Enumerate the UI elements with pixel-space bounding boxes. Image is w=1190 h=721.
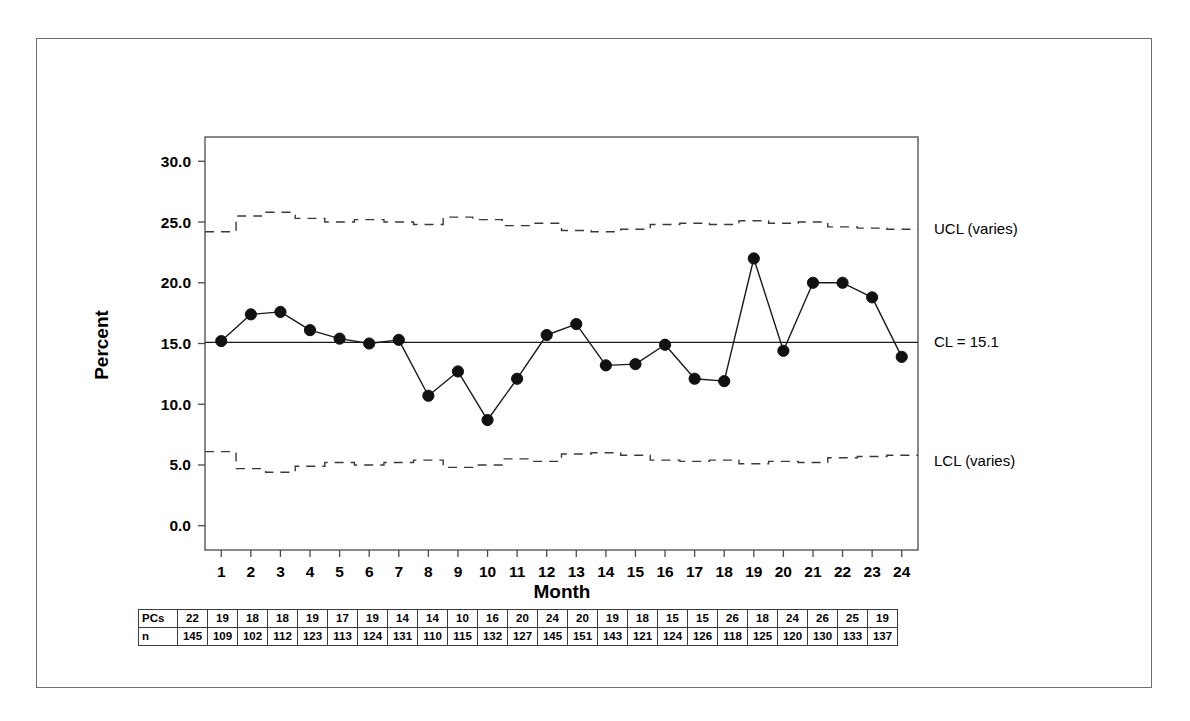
table-cell: 126 bbox=[688, 628, 718, 646]
data-point[interactable] bbox=[867, 292, 878, 303]
data-point[interactable] bbox=[452, 366, 463, 377]
table-cell: 112 bbox=[268, 628, 298, 646]
x-tick-label: 6 bbox=[365, 563, 374, 580]
x-tick-label: 23 bbox=[864, 563, 882, 580]
data-point[interactable] bbox=[719, 376, 730, 387]
table-cell: 18 bbox=[748, 610, 778, 628]
data-point[interactable] bbox=[482, 414, 493, 425]
data-point[interactable] bbox=[689, 373, 700, 384]
data-point[interactable] bbox=[659, 339, 670, 350]
data-point[interactable] bbox=[807, 277, 818, 288]
y-tick-label: 10.0 bbox=[161, 396, 191, 413]
table-cell: 125 bbox=[748, 628, 778, 646]
x-tick-label: 11 bbox=[509, 563, 526, 580]
table-cell: 102 bbox=[238, 628, 268, 646]
x-tick-label: 16 bbox=[656, 563, 674, 580]
table-cell: 14 bbox=[388, 610, 418, 628]
table-cell: 18 bbox=[628, 610, 658, 628]
data-point[interactable] bbox=[275, 306, 286, 317]
table-cell: 133 bbox=[838, 628, 868, 646]
x-tick-label: 19 bbox=[745, 563, 763, 580]
table-cell: 19 bbox=[598, 610, 628, 628]
data-point[interactable] bbox=[630, 359, 641, 370]
y-tick-label: 5.0 bbox=[169, 456, 191, 473]
x-tick-label: 2 bbox=[247, 563, 256, 580]
summary-data-table: PCs2219181819171914141016202420191815152… bbox=[138, 609, 898, 646]
x-tick-label: 18 bbox=[716, 563, 734, 580]
data-point[interactable] bbox=[571, 318, 582, 329]
data-point[interactable] bbox=[334, 333, 345, 344]
table-cell: 118 bbox=[718, 628, 748, 646]
x-tick-label: 17 bbox=[686, 563, 703, 580]
table-cell: 123 bbox=[298, 628, 328, 646]
table-body: PCs2219181819171914141016202420191815152… bbox=[139, 610, 898, 646]
ucl-line bbox=[205, 212, 918, 231]
table-cell: 151 bbox=[568, 628, 598, 646]
data-point[interactable] bbox=[541, 329, 552, 340]
table-cell: 130 bbox=[808, 628, 838, 646]
table-cell: 120 bbox=[778, 628, 808, 646]
table-cell: 19 bbox=[868, 610, 898, 628]
y-tick-label: 20.0 bbox=[161, 274, 191, 291]
data-point[interactable] bbox=[748, 253, 759, 264]
table-cell: 124 bbox=[658, 628, 688, 646]
table-cell: 109 bbox=[208, 628, 238, 646]
x-tick-label: 3 bbox=[276, 563, 285, 580]
data-point[interactable] bbox=[512, 373, 523, 384]
data-point[interactable] bbox=[216, 335, 227, 346]
x-tick-label: 5 bbox=[335, 563, 344, 580]
data-point[interactable] bbox=[600, 360, 611, 371]
axis-titles-group: Percent Month bbox=[91, 309, 590, 602]
table-cell: 127 bbox=[508, 628, 538, 646]
y-tick-label: 30.0 bbox=[161, 153, 191, 170]
table-cell: 124 bbox=[358, 628, 388, 646]
table-cell: 19 bbox=[358, 610, 388, 628]
table-cell: 18 bbox=[238, 610, 268, 628]
data-point[interactable] bbox=[837, 277, 848, 288]
x-tick-label: 8 bbox=[424, 563, 433, 580]
x-tick-label: 20 bbox=[775, 563, 792, 580]
table-cell: 15 bbox=[658, 610, 688, 628]
y-tick-label: 0.0 bbox=[169, 517, 191, 534]
plot-area: 0.05.010.015.020.025.030.012345678910111… bbox=[161, 137, 918, 580]
x-tick-label: 1 bbox=[217, 563, 226, 580]
plot-frame bbox=[205, 137, 918, 550]
y-tick-label: 15.0 bbox=[161, 335, 191, 352]
x-tick-label: 22 bbox=[834, 563, 851, 580]
table-cell: 25 bbox=[838, 610, 868, 628]
data-point[interactable] bbox=[245, 309, 256, 320]
table-cell: 24 bbox=[538, 610, 568, 628]
x-tick-label: 14 bbox=[597, 563, 615, 580]
data-series-group bbox=[205, 212, 918, 472]
lcl-line bbox=[205, 452, 918, 473]
y-tick-label: 25.0 bbox=[161, 214, 191, 231]
x-tick-label: 13 bbox=[568, 563, 586, 580]
table-cell: 18 bbox=[268, 610, 298, 628]
table-row: n145109102112123113124131110115132127145… bbox=[139, 628, 898, 646]
data-point[interactable] bbox=[393, 334, 404, 345]
x-tick-label: 12 bbox=[538, 563, 555, 580]
table-row-label: n bbox=[139, 628, 178, 646]
table-cell: 10 bbox=[448, 610, 478, 628]
table-cell: 26 bbox=[808, 610, 838, 628]
x-tick-label: 9 bbox=[454, 563, 463, 580]
data-point[interactable] bbox=[364, 338, 375, 349]
table-cell: 132 bbox=[478, 628, 508, 646]
table-cell: 115 bbox=[448, 628, 478, 646]
cl-label: CL = 15.1 bbox=[934, 333, 999, 350]
y-axis-title: Percent bbox=[91, 309, 112, 379]
table-cell: 26 bbox=[718, 610, 748, 628]
table-cell: 14 bbox=[418, 610, 448, 628]
data-point[interactable] bbox=[423, 390, 434, 401]
table-row-label: PCs bbox=[139, 610, 178, 628]
table-cell: 143 bbox=[598, 628, 628, 646]
table-cell: 15 bbox=[688, 610, 718, 628]
data-point[interactable] bbox=[896, 351, 907, 362]
data-point[interactable] bbox=[778, 345, 789, 356]
x-tick-label: 10 bbox=[479, 563, 496, 580]
table-cell: 131 bbox=[388, 628, 418, 646]
data-point[interactable] bbox=[304, 325, 315, 336]
table-cell: 19 bbox=[208, 610, 238, 628]
table-cell: 110 bbox=[418, 628, 448, 646]
table-cell: 19 bbox=[298, 610, 328, 628]
